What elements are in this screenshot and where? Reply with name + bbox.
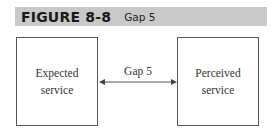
perceived-service-line1: Perceived (195, 65, 240, 82)
figure-title: Gap 5 (124, 11, 155, 23)
gap-label: Gap 5 (99, 65, 177, 77)
double-arrow-icon (99, 77, 177, 87)
perceived-service-box: Perceived service (177, 37, 259, 126)
figure-header: FIGURE 8-8 Gap 5 (15, 7, 267, 26)
expected-service-box: Expected service (16, 37, 98, 126)
expected-service-line2: service (36, 82, 79, 99)
figure-number: FIGURE 8-8 (21, 9, 111, 25)
expected-service-line1: Expected (36, 65, 79, 82)
perceived-service-line2: service (195, 82, 240, 99)
